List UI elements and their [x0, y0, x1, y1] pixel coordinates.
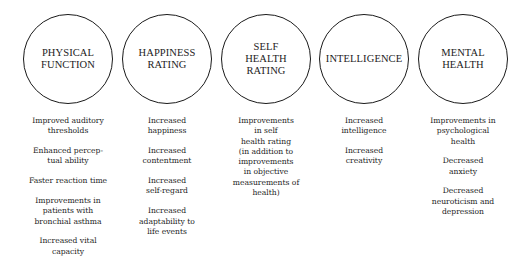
- benefit-item: Improvements in patients with bronchial …: [16, 196, 120, 227]
- benefit-item: Increased adaptability to life events: [115, 206, 219, 237]
- category-circle: PHYSICAL FUNCTION: [23, 14, 113, 104]
- category-mental-health: MENTAL HEALTH Improvements in psychologi…: [413, 0, 513, 272]
- benefit-item: Increased happiness: [115, 116, 219, 137]
- benefit-list: Improvements in self health rating (in a…: [214, 116, 318, 208]
- benefit-item: Increased intelligence: [312, 116, 416, 137]
- benefit-item: Improvements in psychological health: [411, 116, 515, 147]
- category-happiness-rating: HAPPINESS RATING Increased happiness Inc…: [117, 0, 217, 272]
- benefit-list: Improved auditory thresholds Enhanced pe…: [16, 116, 120, 266]
- category-circle: SELF HEALTH RATING: [221, 14, 311, 104]
- circle-title: SELF HEALTH RATING: [245, 41, 287, 77]
- category-circle: INTELLIGENCE: [319, 14, 409, 104]
- benefit-item: Increased self-regard: [115, 176, 219, 197]
- circle-title: HAPPINESS RATING: [139, 47, 196, 71]
- category-physical-function: PHYSICAL FUNCTION Improved auditory thre…: [18, 0, 118, 272]
- category-intelligence: INTELLIGENCE Increased intelligence Incr…: [314, 0, 414, 272]
- benefit-list: Improvements in psychological health Dec…: [411, 116, 515, 227]
- circle-title: INTELLIGENCE: [326, 53, 402, 65]
- category-self-health-rating: SELF HEALTH RATING Improvements in self …: [216, 0, 316, 272]
- category-circle: HAPPINESS RATING: [122, 14, 212, 104]
- benefit-list: Increased happiness Increased contentmen…: [115, 116, 219, 247]
- benefit-item: Improvements in self health rating (in a…: [214, 116, 318, 198]
- benefit-item: Decreased anxiety: [411, 156, 515, 177]
- benefit-list: Increased intelligence Increased creativ…: [312, 116, 416, 176]
- benefit-item: Increased creativity: [312, 146, 416, 167]
- circle-title: PHYSICAL FUNCTION: [41, 47, 95, 71]
- benefit-item: Enhanced percep- tual ability: [16, 146, 120, 167]
- benefit-item: Increased vital capacity: [16, 236, 120, 257]
- category-circle: MENTAL HEALTH: [418, 14, 508, 104]
- benefit-item: Improved auditory thresholds: [16, 116, 120, 137]
- benefit-item: Increased contentment: [115, 146, 219, 167]
- circle-title: MENTAL HEALTH: [441, 47, 485, 71]
- benefit-item: Decreased neuroticism and depression: [411, 186, 515, 217]
- benefit-item: Faster reaction time: [16, 176, 120, 186]
